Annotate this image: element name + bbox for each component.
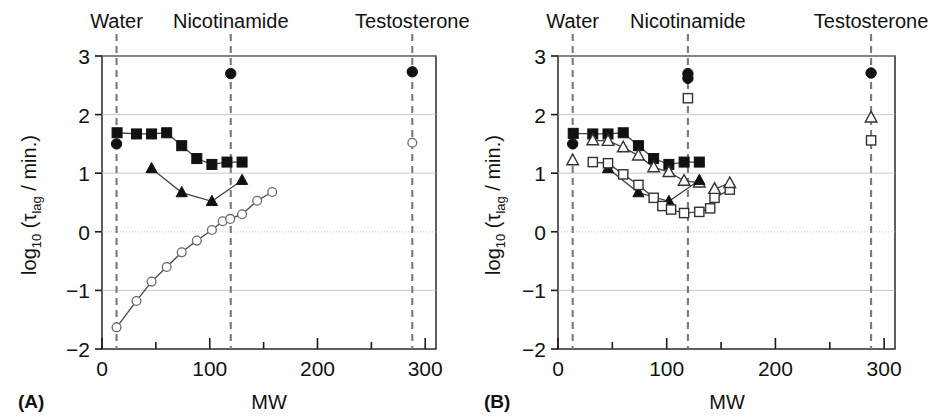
open-square-marker <box>695 207 704 216</box>
panel-b-canvas: −2−101230100200300WaterNicotinamideTesto… <box>470 0 951 420</box>
filled-square-marker <box>131 129 141 139</box>
plot-frame <box>558 56 895 349</box>
x-axis-tick-label: 100 <box>192 357 227 380</box>
panel-b-ylabel-10: 10 <box>493 234 508 248</box>
y-axis-tick-label: 2 <box>534 104 546 127</box>
open-square-marker <box>683 94 692 103</box>
y-axis-tick-label: 0 <box>534 221 546 244</box>
panel-b-ylabel-lag: lag <box>493 196 508 213</box>
filled-triangle-marker <box>694 174 705 184</box>
filled-square-marker <box>618 128 628 138</box>
y-axis-tick-label: −2 <box>522 338 546 361</box>
open-square-marker <box>603 159 612 168</box>
filled-square-marker <box>222 157 232 167</box>
y-axis-tick-label: −2 <box>66 338 90 361</box>
panel-a-label: (A) <box>18 391 44 412</box>
panel-b-ylabel-log: log <box>482 248 504 275</box>
panel-b-yaxis-title: log10 (τlag / min.) <box>482 135 508 275</box>
y-axis-tick-label: 1 <box>78 162 90 185</box>
filled-triangle-marker <box>146 163 157 173</box>
panel-a-ylabel-10: 10 <box>29 234 44 248</box>
x-axis-tick-label: 100 <box>649 357 684 380</box>
panel-a-ylabel-open: (τ <box>18 214 40 234</box>
x-axis-tick-label: 0 <box>552 357 564 380</box>
open-circle-marker <box>192 236 201 245</box>
solvent-reference-label: Testosterone <box>355 10 470 32</box>
open-square-marker <box>619 170 628 179</box>
open-circle-marker <box>268 188 277 197</box>
filled-square-marker <box>177 141 187 151</box>
filled-square-marker <box>237 157 247 167</box>
open-circle-marker <box>238 210 247 219</box>
filled-circle-marker <box>567 139 577 149</box>
filled-circle-marker <box>683 73 693 83</box>
panel-b-xaxis-title: MW <box>709 391 745 413</box>
panel-a: −2−101230100200300WaterNicotinamideTesto… <box>0 0 470 420</box>
solvent-reference-label: Nicotinamide <box>630 10 746 32</box>
open-square-marker <box>706 204 715 213</box>
open-triangle-marker <box>567 154 579 165</box>
filled-triangle-marker <box>236 174 247 184</box>
filled-square-marker <box>147 129 157 139</box>
panel-b-plot: −2−101230100200300WaterNicotinamideTesto… <box>522 10 928 380</box>
filled-square-marker <box>207 159 217 169</box>
panel-a-ylabel-log: log <box>18 248 40 275</box>
panel-a-ylabel-lag: lag <box>29 196 44 213</box>
solvent-reference-label: Nicotinamide <box>173 10 289 32</box>
figure-root: −2−101230100200300WaterNicotinamideTesto… <box>0 0 951 420</box>
y-axis-tick-label: −1 <box>522 279 546 302</box>
panel-a-xaxis-title: MW <box>251 391 287 413</box>
panel-b-label: (B) <box>484 391 510 412</box>
panel-a-ylabel-close: / min.) <box>18 135 40 196</box>
solvent-reference-label: Testosterone <box>814 10 929 32</box>
y-axis-tick-label: 0 <box>78 221 90 244</box>
y-axis-tick-label: 1 <box>534 162 546 185</box>
filled-square-marker <box>162 128 172 138</box>
open-circle-marker <box>147 277 156 286</box>
panel-b-ylabel-close: / min.) <box>482 135 504 196</box>
x-axis-tick-label: 200 <box>300 357 335 380</box>
solvent-reference-label: Water <box>546 10 599 32</box>
open-square-marker <box>658 201 667 210</box>
open-circle-marker <box>408 138 417 147</box>
y-axis-tick-label: 3 <box>78 45 90 68</box>
y-axis-tick-label: 2 <box>78 104 90 127</box>
x-axis-tick-label: 300 <box>408 357 443 380</box>
open-circle-marker <box>177 248 186 257</box>
open-circle-marker <box>162 263 171 272</box>
x-axis-tick-label: 0 <box>96 357 108 380</box>
x-axis-tick-label: 200 <box>758 357 793 380</box>
y-axis-tick-label: 3 <box>534 45 546 68</box>
filled-circle-marker <box>407 67 417 77</box>
open-triangle-marker <box>617 141 629 152</box>
filled-triangle-marker <box>176 187 187 197</box>
open-square-marker <box>588 157 597 166</box>
panel-a-plot: −2−101230100200300WaterNicotinamideTesto… <box>66 10 470 380</box>
filled-circle-marker <box>226 68 236 78</box>
panel-a-canvas: −2−101230100200300WaterNicotinamideTesto… <box>0 0 470 420</box>
filled-circle-marker <box>866 68 876 78</box>
open-square-marker <box>634 180 643 189</box>
open-circle-marker <box>253 196 262 205</box>
filled-square-marker <box>192 154 202 164</box>
open-circle-marker <box>112 323 121 332</box>
y-axis-tick-label: −1 <box>66 279 90 302</box>
filled-square-marker <box>112 128 122 138</box>
panel-a-yaxis-title: log10 (τlag / min.) <box>18 135 44 275</box>
filled-circle-marker <box>111 139 121 149</box>
panel-b: −2−101230100200300WaterNicotinamideTesto… <box>470 0 951 420</box>
solvent-reference-label: Water <box>90 10 143 32</box>
open-square-marker <box>649 193 658 202</box>
open-square-marker <box>680 208 689 217</box>
filled-square-marker <box>694 157 704 167</box>
x-axis-tick-label: 300 <box>867 357 902 380</box>
filled-square-marker <box>679 157 689 167</box>
open-circle-marker <box>226 215 235 224</box>
open-triangle-marker <box>865 111 877 122</box>
open-square-marker <box>710 193 719 202</box>
panel-b-ylabel-open: (τ <box>482 214 504 234</box>
open-square-marker <box>666 205 675 214</box>
series-connector-line <box>117 192 273 327</box>
open-triangle-marker <box>724 177 736 188</box>
open-circle-marker <box>132 297 141 306</box>
